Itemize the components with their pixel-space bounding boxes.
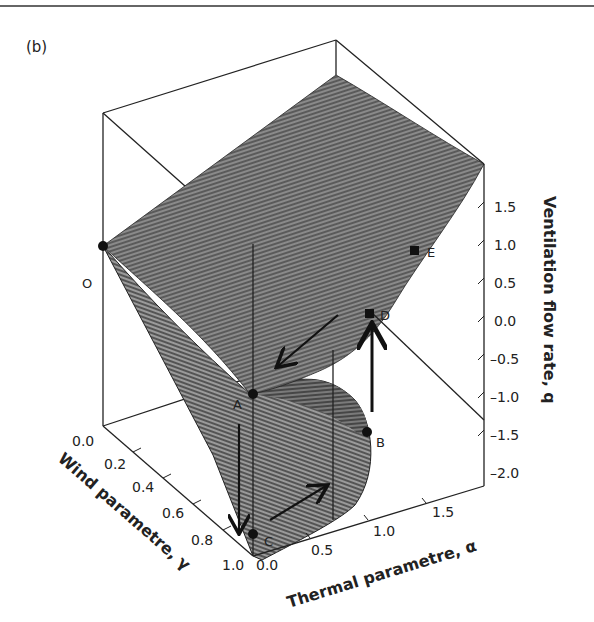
surface-plot: (b): [0, 0, 594, 622]
point-b: [362, 427, 372, 437]
z-tick: 0.5: [494, 275, 516, 291]
z-tick: –1.0: [490, 389, 519, 405]
point-c: [248, 529, 258, 539]
z-tick: 1.5: [494, 199, 516, 215]
z-tick: –2.0: [490, 465, 519, 481]
y-tick: 0.4: [132, 479, 154, 495]
point-e: [410, 246, 419, 255]
z-axis-title: Ventilation flow rate, q: [540, 196, 559, 404]
point-o: [98, 241, 108, 251]
point-d: [365, 309, 374, 318]
panel-label: (b): [26, 38, 47, 56]
x-tick: 1.0: [373, 523, 395, 539]
label-a: A: [233, 397, 242, 412]
y-tick: 0.6: [162, 505, 184, 521]
label-d: D: [380, 308, 390, 323]
y-tick: 1.0: [222, 557, 244, 573]
label-c: C: [264, 534, 273, 549]
x-tick: 1.5: [432, 504, 454, 520]
z-tick-labels: 1.5 1.0 0.5 0.0 –0.5 –1.0 –1.5 –2.0: [490, 199, 519, 481]
y-tick: 0.0: [72, 433, 94, 449]
label-b: B: [376, 435, 385, 450]
z-axis-ticks: [478, 202, 484, 436]
label-e: E: [427, 245, 435, 260]
x-tick: 0.5: [311, 542, 333, 558]
z-tick: –0.5: [490, 351, 519, 367]
y-tick: 0.2: [104, 456, 126, 472]
z-tick: –1.5: [490, 427, 519, 443]
point-a: [248, 389, 258, 399]
y-tick: 0.8: [191, 532, 213, 548]
z-tick: 1.0: [494, 237, 516, 253]
x-tick: 0.0: [256, 557, 278, 573]
z-tick: 0.0: [494, 313, 516, 329]
label-o: O: [82, 276, 92, 291]
